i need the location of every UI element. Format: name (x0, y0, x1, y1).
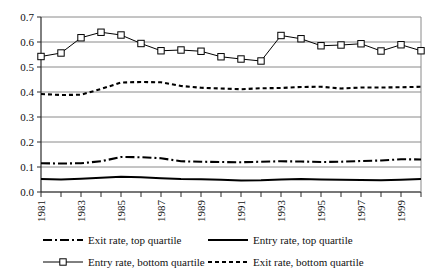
data-point-marker (158, 48, 164, 54)
legend-label: Exit rate, top quartile (88, 234, 182, 246)
x-axis-tick-label: 1983 (75, 200, 87, 223)
chart-container: 0.00.10.20.30.40.50.60.7 198119831985198… (0, 0, 427, 278)
x-axis-tick-label: 1991 (235, 200, 247, 222)
line-chart: 0.00.10.20.30.40.50.60.7 198119831985198… (0, 0, 427, 278)
y-axis-tick-label: 0.6 (20, 36, 34, 48)
y-axis-tick-label: 0.2 (20, 136, 34, 148)
y-axis-tick-label: 0.5 (20, 61, 34, 73)
data-point-marker (298, 36, 304, 42)
legend-label: Entry rate, bottom quartile (88, 256, 205, 268)
legend-label: Entry rate, top quartile (253, 234, 353, 246)
legend-marker-sample (60, 259, 66, 265)
x-axis-tick-label: 1995 (315, 200, 327, 223)
data-point-marker (238, 56, 244, 62)
data-point-marker (218, 54, 224, 60)
data-point-marker (398, 42, 404, 48)
y-axis-tick-label: 0.1 (20, 161, 34, 173)
y-axis-tick-label: 0.7 (20, 11, 34, 23)
x-axis-tick-label: 1989 (195, 200, 207, 223)
y-axis-tick-label: 0.3 (20, 111, 34, 123)
x-axis-tick-label: 1997 (355, 200, 367, 223)
data-point-marker (178, 47, 184, 53)
data-point-marker (38, 53, 44, 59)
data-point-marker (258, 58, 264, 64)
x-axis-tick-label: 1981 (35, 200, 47, 222)
data-point-marker (418, 48, 424, 54)
x-axis-tick-label: 1987 (155, 200, 167, 223)
data-point-marker (138, 40, 144, 46)
x-axis-tick-label: 1985 (115, 200, 127, 223)
data-point-marker (358, 41, 364, 47)
data-point-marker (198, 48, 204, 54)
data-point-marker (78, 35, 84, 41)
legend-label: Exit rate, bottom quartile (253, 256, 364, 268)
y-axis-tick-label: 0.4 (20, 86, 34, 98)
x-axis-tick-label: 1999 (395, 200, 407, 223)
x-axis-tick-label: 1993 (275, 200, 287, 223)
data-point-marker (278, 32, 284, 38)
data-point-marker (118, 32, 124, 38)
data-point-marker (378, 48, 384, 54)
y-axis-tick-label: 0.0 (20, 186, 34, 198)
data-point-marker (58, 50, 64, 56)
data-point-marker (98, 29, 104, 35)
data-point-marker (338, 42, 344, 48)
data-point-marker (318, 43, 324, 49)
